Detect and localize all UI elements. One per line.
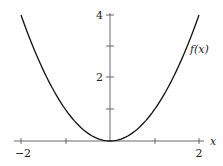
x-tick-label-max: 2 [196, 147, 203, 160]
y-tick-label-2: 2 [96, 71, 103, 84]
x-tick-label-min: −2 [15, 147, 31, 160]
curve-label: f(x) [189, 43, 209, 56]
x-axis-label: x [210, 135, 217, 148]
chart: −2 2 2 4 x f(x) [0, 0, 223, 166]
y-tick-label-4: 4 [96, 9, 103, 22]
